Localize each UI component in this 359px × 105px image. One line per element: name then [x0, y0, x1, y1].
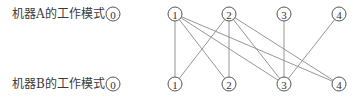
svg-text:1: 1 [172, 9, 178, 21]
node-A4: 4 [332, 7, 346, 21]
svg-text:0: 0 [110, 79, 116, 91]
svg-text:1: 1 [172, 79, 178, 91]
edge-A2-B3 [233, 20, 279, 79]
svg-text:3: 3 [281, 9, 287, 21]
node-A3: 3 [277, 7, 291, 21]
node-B1: 1 [168, 77, 182, 91]
node-B4: 4 [332, 77, 346, 91]
node-A1: 1 [168, 7, 182, 21]
svg-text:4: 4 [336, 79, 342, 91]
node-A0: 0 [106, 7, 120, 21]
node-B2: 2 [222, 77, 236, 91]
nodes: 0123401234 [106, 7, 346, 91]
svg-text:0: 0 [110, 9, 116, 21]
svg-text:2: 2 [226, 79, 232, 91]
edge-A1-B3 [181, 18, 278, 80]
svg-text:2: 2 [226, 9, 232, 21]
node-B0: 0 [106, 77, 120, 91]
edges [175, 17, 335, 82]
bipartite-mode-graph: 0123401234 [0, 0, 359, 105]
node-B3: 3 [277, 77, 291, 91]
svg-text:4: 4 [336, 9, 342, 21]
edge-A4-B3 [288, 20, 334, 79]
svg-text:3: 3 [281, 79, 287, 91]
node-A2: 2 [222, 7, 236, 21]
